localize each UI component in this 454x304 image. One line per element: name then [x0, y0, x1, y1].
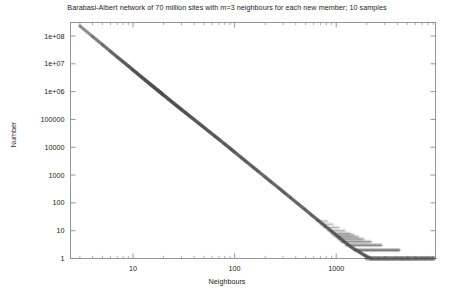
svg-text:10: 10	[57, 226, 65, 235]
x-axis-ticks: 101001000	[80, 23, 433, 273]
plot-canvas: 101001000 1e+081e+071e+06100000100001000…	[0, 0, 454, 304]
svg-text:10000: 10000	[45, 143, 65, 152]
svg-text:10: 10	[129, 264, 137, 273]
svg-text:100000: 100000	[41, 115, 65, 124]
svg-text:1: 1	[61, 254, 65, 263]
data-series-points	[78, 24, 437, 261]
data-point	[337, 226, 341, 230]
y-axis-ticks: 1e+081e+071e+06100000100001000100101	[41, 32, 436, 264]
svg-text:1000: 1000	[49, 171, 65, 180]
svg-text:1e+06: 1e+06	[44, 87, 64, 96]
svg-text:1000: 1000	[328, 264, 344, 273]
svg-text:1e+07: 1e+07	[44, 59, 64, 68]
chart-container: Barabasi-Albert network of 70 million si…	[0, 0, 454, 304]
svg-text:100: 100	[229, 264, 241, 273]
plot-frame	[71, 23, 436, 259]
svg-text:100: 100	[53, 198, 65, 207]
svg-text:1e+08: 1e+08	[44, 32, 64, 41]
